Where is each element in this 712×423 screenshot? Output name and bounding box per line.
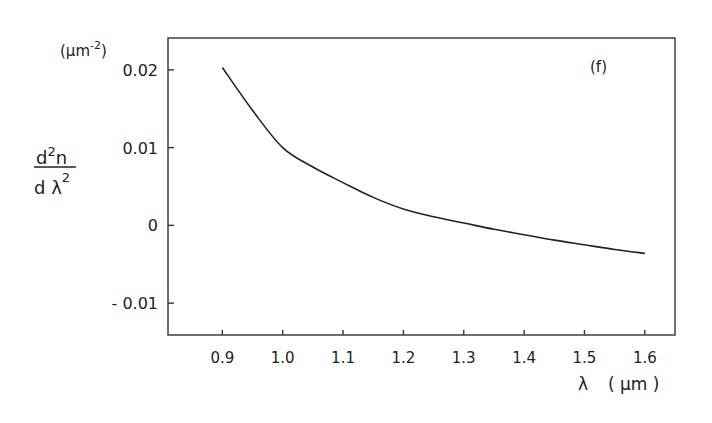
y-tick-label: - 0.01 [112, 294, 158, 313]
y-axis-label: d2n d λ2 [34, 144, 76, 198]
x-tick-label: 1.6 [633, 349, 657, 367]
x-tick-label: 1.5 [573, 349, 597, 367]
x-tick-label: 1.2 [391, 349, 415, 367]
y-unit-label: (μm-2) [60, 39, 107, 60]
y-tick-label: 0.02 [122, 61, 158, 80]
x-tick-label: 1.4 [512, 349, 536, 367]
plot-frame [168, 38, 675, 335]
y-tick-label: 0 [148, 216, 158, 235]
svg-text:( μm ): ( μm ) [608, 374, 659, 394]
svg-text:d λ2: d λ2 [34, 170, 70, 198]
y-axis-ticks: 0.020.010- 0.01 [112, 61, 174, 313]
x-tick-label: 1.0 [271, 349, 295, 367]
panel-label: (f) [590, 58, 607, 76]
x-tick-label: 0.9 [210, 349, 234, 367]
data-curve [222, 68, 645, 254]
y-tick-label: 0.01 [122, 139, 158, 158]
x-axis-label: λ ( μm ) [578, 374, 659, 394]
svg-text:d2n: d2n [36, 144, 67, 168]
svg-text:(μm-2): (μm-2) [60, 39, 107, 60]
x-tick-label: 1.3 [452, 349, 476, 367]
x-tick-label: 1.1 [331, 349, 355, 367]
chart-canvas: 0.020.010- 0.01 0.91.01.11.21.31.41.51.6… [0, 0, 712, 423]
svg-text:λ: λ [578, 374, 588, 394]
